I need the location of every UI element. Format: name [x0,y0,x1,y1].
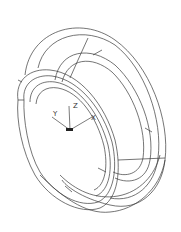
section-line-top [70,38,88,78]
y-axis-label: Y [52,110,58,118]
section-line-bottom-2 [98,168,106,172]
z-axis-label: Z [73,102,78,110]
cad-viewport[interactable]: Z X Y [0,0,181,232]
front-rim-4 [36,88,106,190]
ucs-icon: Z X Y [52,102,96,131]
section-line-top-right [93,50,102,55]
x-axis-line [70,117,92,130]
ucs-origin-marker [66,128,73,131]
section-line-right-2 [145,128,152,132]
inner-ring-2 [62,61,144,174]
front-rim-3 [30,82,110,196]
x-axis-label: X [91,114,96,122]
z-axis-line [69,106,70,130]
